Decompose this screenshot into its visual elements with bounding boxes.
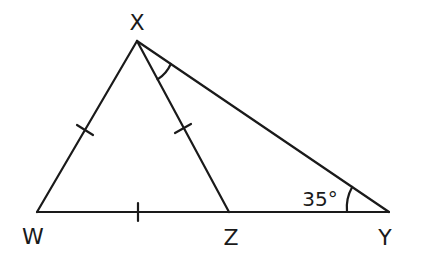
vertex-label-z: Z <box>223 227 238 249</box>
vertex-label-y: Y <box>378 227 391 249</box>
angle-arc-y <box>347 187 352 212</box>
segment-xy <box>137 41 389 212</box>
diagram-lines <box>0 0 422 257</box>
angle-label-y: 35° <box>302 189 337 209</box>
vertex-label-w: W <box>22 226 44 248</box>
segment-xz <box>137 41 229 212</box>
segment-xw <box>37 41 137 212</box>
tick-mark-xw <box>77 125 93 135</box>
triangle-diagram: X W Z Y 35° <box>0 0 422 257</box>
vertex-label-x: X <box>129 12 144 34</box>
angle-arc-x <box>158 64 171 79</box>
